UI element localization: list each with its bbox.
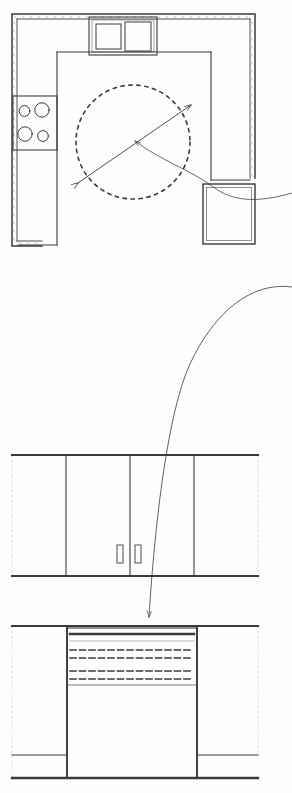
kitchen-floor-plan [12,14,292,246]
sink-basin-right [125,22,151,51]
diameter-dimension-arrow [78,105,191,183]
work-circle [76,85,190,199]
exterior-wall-outer [12,14,255,246]
dishwasher-vent-lines [70,650,192,679]
burner-3 [18,127,32,141]
drawing-canvas [0,0,292,793]
counter-run [18,52,250,245]
sink-basin-left [96,24,121,49]
dishwasher-plan [203,184,255,244]
leader-plan-to-elevation [135,141,292,199]
upper-cabinet-run [12,455,258,576]
drawing-sheet: Kitchen Plan and Elevation Kitchen Floor… [0,0,292,793]
cooktop [13,96,57,150]
dishwasher-elevation [67,628,197,778]
leader-curve-main [149,286,292,617]
double-sink [89,17,157,55]
kitchen-elevation [12,455,258,778]
wall-hatch [13,16,253,244]
base-cabinet-run [12,626,258,778]
burner-4 [38,131,49,142]
cabinet-handle-left [117,545,123,563]
burner-2 [35,103,49,117]
cabinet-handle-right [135,545,141,563]
burner-1 [19,106,30,117]
